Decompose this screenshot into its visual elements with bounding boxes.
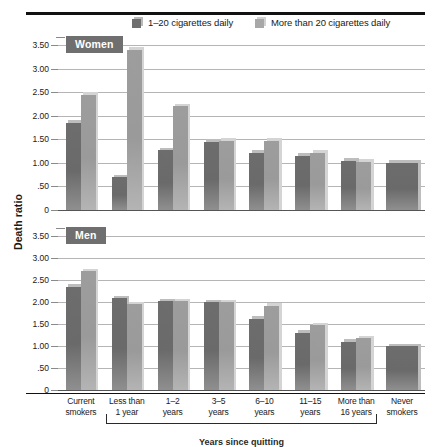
bar bbox=[158, 150, 173, 210]
x-axis-label-7: Neversmokers bbox=[379, 396, 425, 417]
y-axis-tick-label: 3.50 bbox=[7, 40, 49, 50]
bar-group bbox=[58, 236, 104, 390]
bar bbox=[204, 302, 219, 390]
bar bbox=[295, 156, 310, 210]
bar bbox=[249, 319, 264, 390]
bar-group bbox=[333, 45, 379, 210]
y-axis-tick-label: 1.50 bbox=[7, 319, 49, 329]
bar-group bbox=[379, 45, 425, 210]
panel-women-badge: Women bbox=[66, 36, 123, 53]
bar-group bbox=[104, 236, 150, 390]
y-axis-tick-label: 3.50 bbox=[7, 231, 49, 241]
bar-group bbox=[242, 45, 288, 210]
panel-women: 3.503.002.502.001.501.00.500 Women bbox=[58, 45, 425, 210]
bar-group bbox=[196, 236, 242, 390]
bar-group bbox=[196, 45, 242, 210]
y-axis-tick-label: 2.00 bbox=[7, 111, 49, 121]
legend-item-1-20-cigarettes: 1–20 cigarettes daily bbox=[132, 17, 233, 28]
bar bbox=[112, 177, 127, 210]
y-axis-tick-label: 1.00 bbox=[7, 341, 49, 351]
panel-women-plot-area: 3.503.002.502.001.501.00.500 bbox=[58, 45, 425, 210]
legend-label-more-than-20-cigarettes: More than 20 cigarettes daily bbox=[271, 17, 390, 28]
y-axis-tick-label: .50 bbox=[7, 181, 49, 191]
y-axis-tick-label: 1.00 bbox=[7, 158, 49, 168]
y-axis-tick-label: .50 bbox=[7, 363, 49, 373]
panel-men: 3.503.002.502.001.501.00.500 Men bbox=[58, 236, 425, 390]
x-axis-caption: Years since quitting bbox=[58, 437, 425, 447]
legend-label-1-20-cigarettes: 1–20 cigarettes daily bbox=[148, 17, 233, 28]
dark-gray-swatch-icon bbox=[132, 17, 143, 28]
bar bbox=[264, 306, 279, 390]
bar bbox=[341, 342, 356, 390]
bar-group bbox=[333, 236, 379, 390]
bar bbox=[219, 302, 234, 390]
bar bbox=[81, 271, 96, 390]
bar bbox=[204, 142, 219, 210]
bar-reference-never-smokers bbox=[386, 346, 418, 390]
bar bbox=[356, 338, 371, 390]
y-axis-tick-label: 2.50 bbox=[7, 275, 49, 285]
bar bbox=[173, 106, 188, 210]
bar bbox=[81, 95, 96, 211]
bar bbox=[127, 304, 142, 390]
bar bbox=[127, 50, 142, 210]
y-axis-title-text: Death ratio bbox=[12, 194, 24, 250]
years-since-quitting-brace bbox=[106, 414, 377, 424]
legend-item-more-than-20-cigarettes: More than 20 cigarettes daily bbox=[255, 17, 390, 28]
chart-legend: 1–20 cigarettes daily More than 20 cigar… bbox=[132, 17, 390, 28]
bar-group bbox=[150, 45, 196, 210]
bar bbox=[295, 333, 310, 390]
bar-group bbox=[242, 236, 288, 390]
bar-group bbox=[287, 45, 333, 210]
bar bbox=[112, 298, 127, 390]
bar-group bbox=[104, 45, 150, 210]
bar bbox=[264, 141, 279, 210]
bar bbox=[310, 325, 325, 390]
y-axis-tick-label: 3.00 bbox=[7, 253, 49, 263]
top-rule-divider bbox=[26, 12, 425, 15]
panel-men-label: Men bbox=[75, 229, 97, 241]
gridline bbox=[58, 210, 425, 211]
bar-groups bbox=[58, 236, 425, 390]
bar-group bbox=[287, 236, 333, 390]
bar-group bbox=[150, 236, 196, 390]
x-axis-label-0: Currentsmokers bbox=[58, 396, 104, 417]
y-axis-tick-label: 0 bbox=[7, 205, 49, 215]
light-gray-swatch-icon bbox=[255, 17, 266, 28]
y-axis-tick-label: 3.00 bbox=[7, 64, 49, 74]
bar bbox=[158, 301, 173, 390]
panel-women-label: Women bbox=[75, 38, 114, 50]
bar bbox=[249, 153, 264, 211]
bar-reference-never-smokers bbox=[386, 163, 418, 210]
bar-group bbox=[58, 45, 104, 210]
y-axis-tick-label: 2.00 bbox=[7, 297, 49, 307]
bar bbox=[310, 153, 325, 211]
bar-group bbox=[379, 236, 425, 390]
bar bbox=[173, 301, 188, 390]
bar-groups bbox=[58, 45, 425, 210]
gridline bbox=[58, 390, 425, 391]
y-axis-tick-label: 1.50 bbox=[7, 134, 49, 144]
bar bbox=[356, 162, 371, 210]
panel-men-plot-area: 3.503.002.502.001.501.00.500 bbox=[58, 236, 425, 390]
y-axis-tick-label: 2.50 bbox=[7, 87, 49, 97]
bar bbox=[66, 287, 81, 390]
x-axis-rule bbox=[26, 393, 425, 394]
bar bbox=[66, 123, 81, 210]
bar bbox=[219, 141, 234, 210]
bar bbox=[341, 161, 356, 211]
panel-men-badge: Men bbox=[66, 227, 106, 244]
